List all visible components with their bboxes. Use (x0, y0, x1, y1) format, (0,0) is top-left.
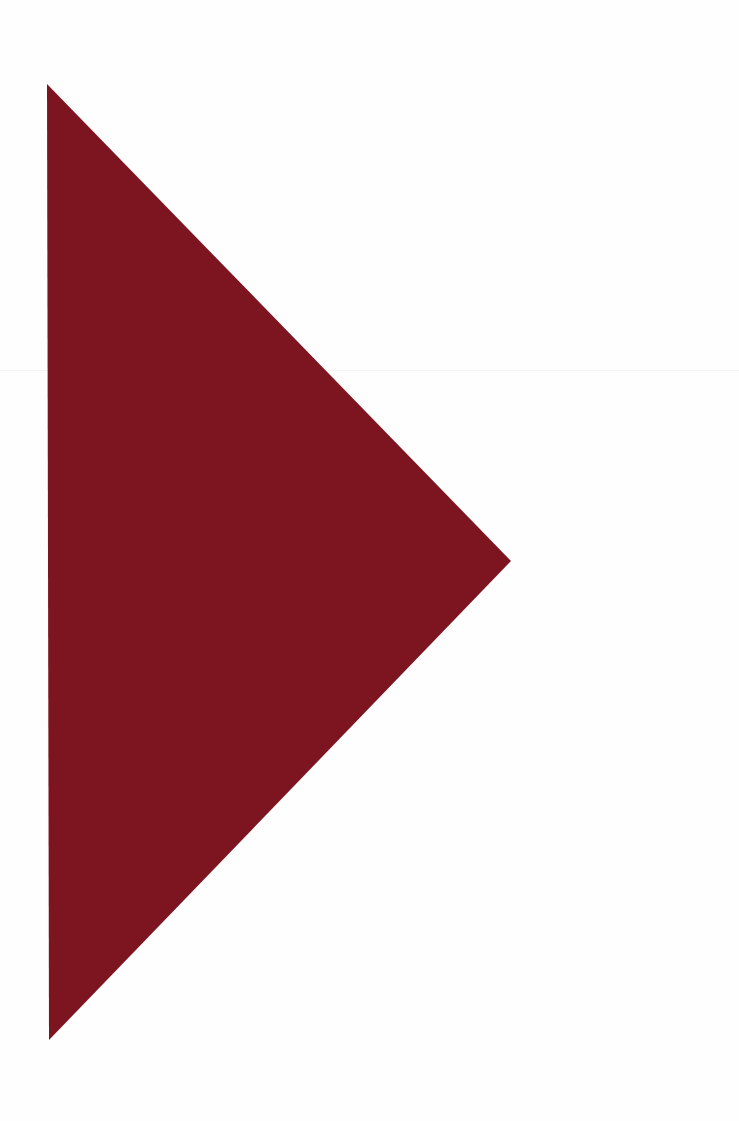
right-pointing-triangle (47, 84, 511, 1040)
triangle-graphic (0, 0, 739, 1121)
page-canvas (0, 0, 739, 1121)
